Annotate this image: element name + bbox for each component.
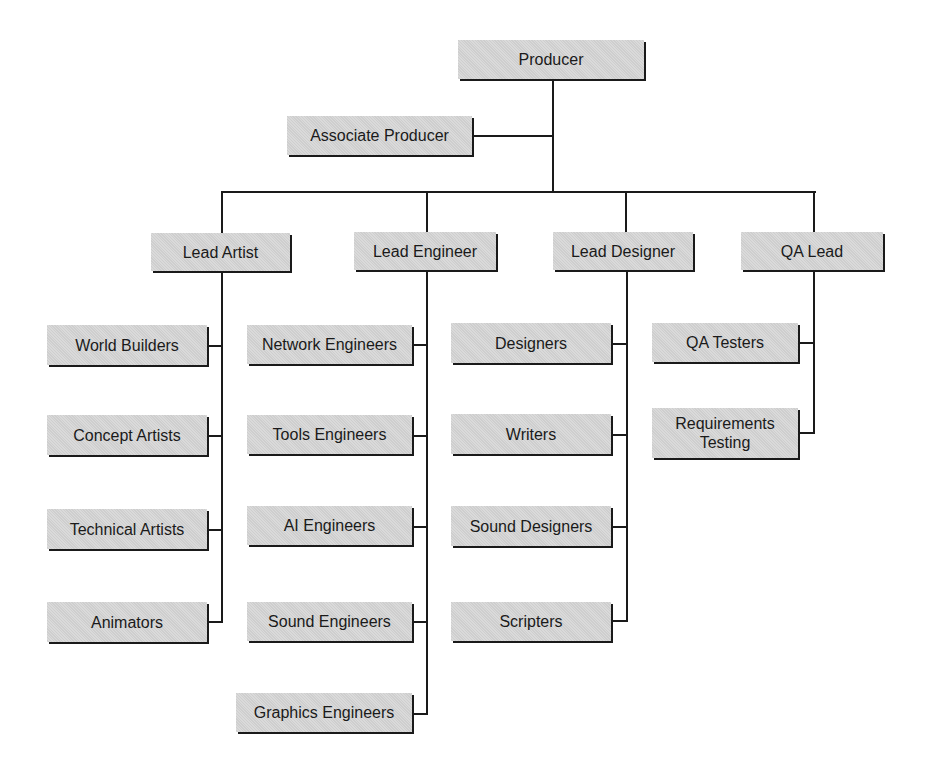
node-lead-engineer: Lead Engineer — [354, 232, 496, 270]
node-writers: Writers — [451, 414, 611, 454]
connector-qa-testers — [800, 342, 815, 344]
node-network-engineers: Network Engineers — [247, 325, 412, 364]
node-sound-engineers: Sound Engineers — [247, 602, 412, 641]
connector-requirements-testing — [800, 432, 815, 434]
connector-scripters — [613, 620, 628, 622]
node-qa-lead: QA Lead — [741, 232, 883, 270]
connector-lead-engineer-up — [426, 191, 428, 233]
connector-concept-artists — [209, 435, 223, 437]
connector-qa-lead-up — [813, 191, 815, 233]
node-lead-artist: Lead Artist — [151, 233, 290, 271]
org-chart: Producer Associate Producer Lead Artist … — [0, 0, 925, 776]
connector-designer-spine — [626, 272, 628, 622]
connector-tools-engineers — [414, 435, 428, 437]
node-requirements-testing: Requirements Testing — [652, 408, 798, 458]
node-animators: Animators — [47, 602, 207, 642]
node-lead-designer: Lead Designer — [553, 232, 693, 270]
node-scripters: Scripters — [451, 602, 611, 641]
node-ai-engineers: AI Engineers — [247, 506, 412, 545]
node-sound-designers: Sound Designers — [451, 506, 611, 546]
connector-lead-artist-up — [221, 191, 223, 233]
node-technical-artists: Technical Artists — [47, 509, 207, 549]
connector-qa-spine — [813, 272, 815, 434]
node-producer: Producer — [458, 40, 644, 79]
connector-sound-engineers — [414, 621, 428, 623]
connector-engineer-spine — [426, 272, 428, 715]
connector-network-engineers — [414, 344, 428, 346]
connector-associate-producer — [474, 135, 553, 137]
connector-artist-spine — [221, 272, 223, 623]
node-concept-artists: Concept Artists — [47, 415, 207, 455]
node-world-builders: World Builders — [47, 325, 207, 365]
connector-designers — [613, 343, 628, 345]
node-designers: Designers — [451, 323, 611, 363]
connector-technical-artists — [209, 529, 223, 531]
node-tools-engineers: Tools Engineers — [247, 415, 412, 454]
connector-ai-engineers — [414, 526, 428, 528]
connector-writers — [613, 434, 628, 436]
connector-sound-designers — [613, 526, 628, 528]
node-qa-testers: QA Testers — [652, 323, 798, 362]
connector-world-builders — [209, 345, 223, 347]
node-associate-producer: Associate Producer — [287, 116, 472, 155]
connector-leads-bus — [221, 191, 816, 193]
connector-lead-designer-up — [625, 191, 627, 233]
connector-graphics-engineers — [414, 713, 428, 715]
connector-animators — [209, 621, 223, 623]
node-graphics-engineers: Graphics Engineers — [236, 693, 412, 732]
